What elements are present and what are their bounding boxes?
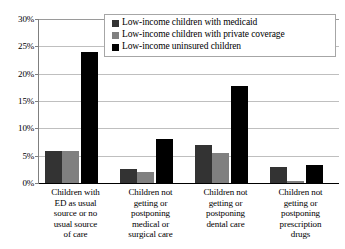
legend-label: Low-income children with medicaid xyxy=(122,18,257,28)
x-axis-category-label-line: source or no xyxy=(38,208,113,219)
x-axis-category-label-line: postponing xyxy=(113,208,188,219)
x-axis-category-label: Children notgetting orpostponingdental c… xyxy=(188,187,263,229)
legend-label: Low-income children with private coverag… xyxy=(122,30,285,40)
x-axis-category-label: Children withED as usualsource or nousua… xyxy=(38,187,113,240)
bar-chart: 30%25%20%15%10%5%0% Low-income children … xyxy=(0,0,345,249)
bar xyxy=(270,167,287,183)
bar xyxy=(212,153,229,183)
y-axis-tick-label: 20% xyxy=(2,69,34,78)
bar xyxy=(45,151,62,183)
legend-item: Low-income uninsured children xyxy=(108,41,332,53)
x-axis-category-label-line: prescription xyxy=(263,219,338,230)
x-axis-category-label: Children notgetting orpostponingmedical … xyxy=(113,187,188,240)
legend-swatch-icon xyxy=(112,20,119,27)
x-axis-category-label-line: Children with xyxy=(38,187,113,198)
x-axis-category-label-line: usual source xyxy=(38,219,113,230)
x-axis-category-label-line: getting or xyxy=(263,198,338,209)
x-axis-category-label-line: postponing xyxy=(263,208,338,219)
y-axis-tick-label: 0% xyxy=(2,179,34,188)
y-axis-tick-label: 30% xyxy=(2,15,34,24)
x-axis-category-label-line: of care xyxy=(38,229,113,240)
bar xyxy=(137,172,154,183)
x-axis-category-label: Children notgetting orpostponingprescrip… xyxy=(263,187,338,240)
legend-swatch-icon xyxy=(112,44,119,51)
legend-swatch-icon xyxy=(112,32,119,39)
bar xyxy=(287,181,304,183)
x-axis-category-label-line: getting or xyxy=(188,198,263,209)
legend-label: Low-income uninsured children xyxy=(122,42,241,52)
bar-group xyxy=(39,19,114,183)
chart-legend: Low-income children with medicaidLow-inc… xyxy=(104,14,336,57)
legend-item: Low-income children with medicaid xyxy=(108,17,332,29)
y-axis-tick-label: 10% xyxy=(2,124,34,133)
y-axis-tick-label: 25% xyxy=(2,42,34,51)
bar xyxy=(231,86,248,183)
bar xyxy=(306,165,323,183)
y-axis-tick-mark xyxy=(35,183,39,184)
legend-item: Low-income children with private coverag… xyxy=(108,29,332,41)
x-axis-category-label-line: getting or xyxy=(113,198,188,209)
x-axis-category-labels: Children withED as usualsource or nousua… xyxy=(38,187,338,249)
x-axis-category-label-line: surgical care xyxy=(113,229,188,240)
y-axis: 30%25%20%15%10%5%0% xyxy=(0,0,34,249)
x-axis-category-label-line: Children not xyxy=(188,187,263,198)
x-axis-category-label-line: Children not xyxy=(263,187,338,198)
x-axis-category-label-line: ED as usual xyxy=(38,198,113,209)
x-axis-category-label-line: dental care xyxy=(188,219,263,230)
x-axis-category-label-line: Children not xyxy=(113,187,188,198)
y-axis-tick-label: 15% xyxy=(2,97,34,106)
x-axis-category-label-line: medical or xyxy=(113,219,188,230)
y-axis-tick-label: 5% xyxy=(2,151,34,160)
bar xyxy=(62,151,79,183)
x-axis-category-label-line: drugs xyxy=(263,229,338,240)
bar xyxy=(156,139,173,183)
bar xyxy=(195,145,212,183)
x-axis-category-label-line: postponing xyxy=(188,208,263,219)
bar xyxy=(81,52,98,183)
bar xyxy=(120,169,137,183)
